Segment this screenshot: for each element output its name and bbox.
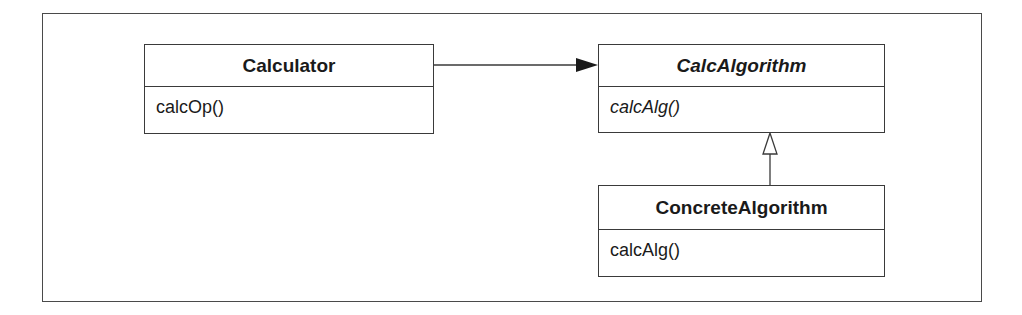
class-operation: calcAlg() (599, 230, 884, 271)
class-name: ConcreteAlgorithm (599, 186, 884, 230)
class-calcalgorithm: CalcAlgorithm calcAlg() (598, 44, 885, 133)
class-calculator: Calculator calcOp() (144, 44, 434, 134)
class-name: CalcAlgorithm (599, 45, 884, 87)
generalization-triangle-icon (763, 133, 777, 154)
association-arrowhead-icon (576, 58, 598, 72)
class-operation: calcOp() (145, 87, 433, 128)
class-operation: calcAlg() (599, 87, 884, 128)
class-concretealgorithm: ConcreteAlgorithm calcAlg() (598, 185, 885, 277)
class-name: Calculator (145, 45, 433, 87)
